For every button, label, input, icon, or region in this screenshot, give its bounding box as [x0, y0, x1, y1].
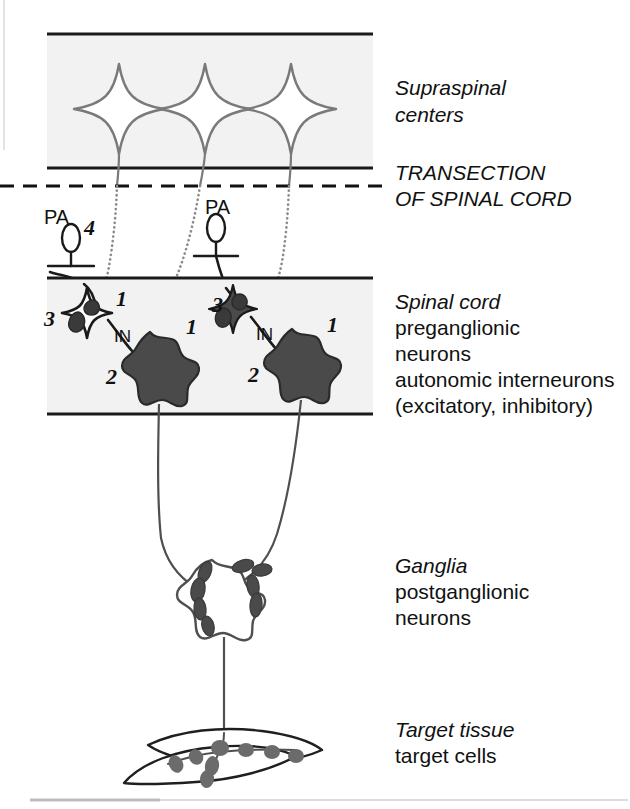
pa-left-soma	[62, 224, 80, 252]
ganglion-bouton-2	[251, 563, 272, 578]
pa-right-label: PA	[205, 196, 231, 218]
varicosity-1	[211, 740, 229, 756]
marker-3-left: 3	[43, 306, 55, 331]
caption-target-line2: target cells	[395, 744, 497, 767]
ganglion-group	[177, 557, 273, 733]
caption-supraspinal-line1: Supraspinal	[395, 76, 507, 99]
marker-1-left: 1	[116, 286, 127, 311]
in-left-label: IN	[114, 327, 131, 346]
caption-spinal-line2: preganglionic	[395, 316, 520, 339]
bouton-pa-to-in-right-upper	[232, 294, 247, 310]
marker-2-left: 2	[105, 364, 117, 389]
autonomic-circuit-diagram: PA 4 3 1 IN 2 1 PA 3 IN 2 1 Supraspinal …	[0, 0, 630, 809]
target-tissue-group	[124, 729, 322, 789]
caption-spinal-title: Spinal cord	[395, 290, 501, 313]
figure-root: PA 4 3 1 IN 2 1 PA 3 IN 2 1 Supraspinal …	[0, 0, 630, 809]
caption-transection-line2: OF SPINAL CORD	[395, 187, 572, 210]
marker-1-right-preganglionic: 1	[327, 312, 338, 337]
caption-spinal-cord: Spinal cord preganglionic neurons autono…	[395, 290, 614, 417]
caption-supraspinal-line2: centers	[395, 103, 464, 126]
preganglionic-axon-left	[158, 404, 196, 588]
varicosity-4	[288, 749, 304, 763]
in-right-label: IN	[256, 325, 273, 344]
marker-3-right: 3	[211, 292, 223, 317]
varicosity-3	[264, 745, 280, 759]
caption-ganglia-title: Ganglia	[395, 554, 467, 577]
pa-right-soma	[207, 214, 225, 242]
pa-left-label: PA	[44, 206, 70, 228]
caption-ganglia: Ganglia postganglionic neurons	[395, 554, 529, 629]
marker-1-left-preganglionic: 1	[186, 314, 197, 339]
caption-spinal-line3: neurons	[395, 342, 471, 365]
marker-2-right: 2	[247, 362, 259, 387]
caption-transection: TRANSECTION OF SPINAL CORD	[395, 161, 572, 210]
preganglionic-axons-group	[158, 400, 301, 588]
varicosity-2	[238, 743, 254, 757]
marker-4: 4	[83, 215, 95, 240]
preganglionic-axon-right	[234, 400, 301, 586]
caption-spinal-line5: (excitatory, inhibitory)	[395, 394, 593, 417]
caption-target-tissue: Target tissue target cells	[395, 718, 514, 767]
caption-transection-line1: TRANSECTION	[395, 161, 546, 184]
bouton-pa-to-in-left-upper	[84, 300, 99, 315]
caption-target-title: Target tissue	[395, 718, 514, 741]
caption-ganglia-line3: neurons	[395, 606, 471, 629]
caption-ganglia-line2: postganglionic	[395, 580, 529, 603]
caption-spinal-line4: autonomic interneurons	[395, 368, 614, 391]
caption-supraspinal: Supraspinal centers	[395, 76, 507, 126]
